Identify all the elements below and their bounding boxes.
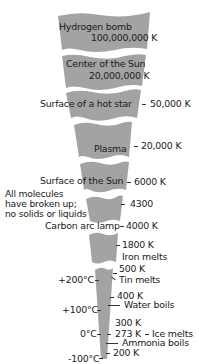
tick-carbon-arc: [120, 226, 124, 227]
tick-zero-c: [97, 334, 101, 335]
note-line-3: no solids or liquids: [5, 209, 87, 219]
tick-minus-100c: [99, 358, 103, 359]
tick-4300: [121, 204, 125, 205]
value-plasma: 20,000 K: [141, 141, 181, 151]
label-water-boils: Water boils: [124, 300, 174, 310]
label-iron-melts: Iron melts: [122, 252, 167, 262]
label-hydrogen-bomb: Hydrogen bomb: [59, 22, 132, 32]
pointer-water-boils: [108, 305, 120, 306]
label-surface-of-sun: Surface of the Sun: [40, 176, 123, 186]
value-carbon-arc: 4000 K: [126, 221, 158, 231]
celsius-minus-100: -100°C: [68, 354, 99, 364]
value-200k: 200 K: [113, 348, 139, 358]
pointer-ice-melts: [145, 334, 149, 335]
value-500k: 500 K: [119, 264, 145, 274]
label-tin-melts: Tin melts: [119, 275, 160, 285]
value-hot-star: 50,000 K: [150, 99, 190, 109]
tick-273k: [107, 334, 111, 335]
celsius-plus-100: +100°C: [62, 305, 98, 315]
value-300k: 300 K: [115, 318, 141, 328]
tick-surface-of-sun: [127, 182, 131, 183]
celsius-plus-200: +200°C: [58, 275, 94, 285]
tick-iron: [116, 245, 120, 246]
value-surface-of-sun: 6000 K: [134, 177, 166, 187]
tick-400k: [110, 297, 114, 298]
tick-plasma: [134, 146, 138, 147]
label-hot-star: Surface of a hot star: [40, 99, 132, 109]
segment-iron-melts: [89, 233, 118, 264]
celsius-zero: 0°C: [80, 329, 97, 339]
value-center-of-sun: 20,000,000 K: [89, 71, 149, 81]
value-molecules-broken: 4300: [130, 199, 153, 209]
tick-500k: [113, 273, 117, 274]
tick-plus-100c: [97, 310, 101, 311]
segment-carbon-arc: [86, 196, 123, 223]
label-plasma: Plasma: [94, 144, 127, 154]
value-hydrogen-bomb: 100,000,000 K: [91, 33, 157, 43]
pointer-ammonia-boils: [106, 343, 118, 344]
value-iron-melts: 1800 K: [122, 240, 154, 250]
label-carbon-arc: Carbon arc lamp: [45, 221, 120, 231]
tick-plus-200c: [95, 280, 99, 281]
tick-200k: [106, 353, 110, 354]
label-center-of-sun: Center of the Sun: [66, 59, 145, 69]
tick-hot-star: [142, 104, 146, 105]
